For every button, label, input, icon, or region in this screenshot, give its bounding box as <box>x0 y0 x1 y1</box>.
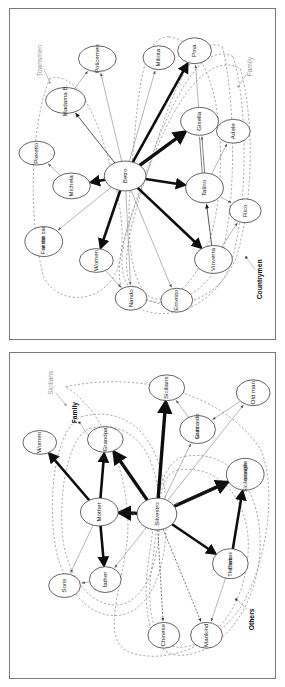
node-label: Miliota <box>155 48 162 66</box>
edge <box>172 524 215 553</box>
node-label: father <box>101 572 108 588</box>
graph-node[interactable]: Talino <box>186 173 224 203</box>
edge <box>48 164 60 176</box>
edge <box>174 482 227 506</box>
graph-node[interactable]: Pieretto <box>19 141 55 165</box>
node-label: Ernesto <box>172 289 179 311</box>
graph-node[interactable]: Grandpa <box>87 427 123 453</box>
edge <box>220 197 231 203</box>
graph-node[interactable]: Nando <box>115 286 147 310</box>
graph-node[interactable]: Gisella <box>181 107 219 135</box>
network-panel-top: BetroMichelaPierettoMadama B.PolicemenFr… <box>9 8 276 340</box>
edge <box>207 204 212 245</box>
edge <box>71 525 94 573</box>
graph-node[interactable]: Madama B. <box>46 84 86 116</box>
edge <box>163 529 201 622</box>
graph-node[interactable]: Pina <box>178 38 212 64</box>
node-label: Lombardo <box>194 414 200 439</box>
group-label: Countrymen <box>256 259 264 299</box>
graph-node[interactable]: Vinverra <box>195 246 233 274</box>
group-label: Family <box>71 402 79 424</box>
graph-node[interactable]: Mother <box>80 498 118 526</box>
graph-node[interactable]: Mankind <box>191 622 223 648</box>
node-label: Women <box>92 249 99 271</box>
graph-node[interactable]: Adele <box>216 119 250 143</box>
network-graph-top: BetroMichelaPierettoMadama B.PolicemenFr… <box>10 9 275 339</box>
graph-node[interactable]: Ernesto <box>161 288 193 312</box>
node-label: Policemen <box>93 44 100 73</box>
graph-node[interactable]: Rico <box>229 199 261 223</box>
graph-node[interactable]: Betro <box>104 161 146 191</box>
node-label: Michela <box>67 175 74 197</box>
node-label: Mother <box>95 502 102 521</box>
group-label: Family <box>246 56 254 76</box>
edge <box>200 137 205 174</box>
node-label: Bartoni <box>227 552 233 570</box>
graph-node[interactable]: father <box>89 567 121 593</box>
graph-node[interactable]: Sons <box>49 574 81 598</box>
node-label: Vinverra <box>209 248 216 271</box>
node-label: Women <box>35 431 42 453</box>
edge <box>211 578 225 621</box>
graph-node[interactable]: Old man <box>236 380 270 406</box>
edge <box>100 454 104 498</box>
edge <box>91 180 105 183</box>
graph-node[interactable]: Chinese <box>148 622 180 648</box>
edge <box>101 526 104 565</box>
node-label: Adele <box>229 123 236 139</box>
edge <box>101 73 122 161</box>
graph-node[interactable]: Sicilians <box>149 375 185 401</box>
graph-node[interactable]: Women <box>79 249 113 273</box>
graph-node[interactable]: Friendsat the bar <box>25 226 63 256</box>
graph-node[interactable]: Michela <box>53 173 91 199</box>
edge <box>120 513 137 514</box>
edge <box>212 401 240 419</box>
figure-page: BetroMichelaPierettoMadama B.PolicemenFr… <box>0 0 285 687</box>
edge <box>82 582 90 583</box>
node-label: Sons <box>60 579 67 593</box>
node-label: oranges <box>242 461 248 481</box>
node-label: Sicilians <box>162 377 169 400</box>
edge <box>196 65 199 107</box>
node-label: Grandpa <box>101 427 108 451</box>
node-label: Nando <box>127 289 134 308</box>
nodes-top: BetroMichelaPierettoMadama B.PolicemenFr… <box>19 38 261 312</box>
graph-node[interactable]: Miliota <box>143 46 175 70</box>
node-label: Betro <box>121 168 128 183</box>
node-label: Pina <box>190 44 197 57</box>
network-graph-bottom: SilvestroMotherGrandpaWomenfatherSonsSic… <box>10 353 275 678</box>
node-label: Talino <box>200 179 207 196</box>
edge <box>101 190 120 247</box>
node-label: at the bar <box>40 226 46 250</box>
edge <box>176 400 189 417</box>
node-label: Old man <box>249 381 256 405</box>
edge <box>133 64 187 162</box>
node-label: Mankind <box>202 623 209 647</box>
edge <box>222 223 238 247</box>
edge <box>212 144 227 174</box>
node-label: Chinese <box>159 623 166 646</box>
network-panel-bottom: SilvestroMotherGrandpaWomenfatherSonsSic… <box>9 352 276 679</box>
edge <box>164 444 191 499</box>
group-label: Sicilians <box>47 370 54 395</box>
edge <box>146 179 185 185</box>
edge <box>115 527 147 567</box>
node-label: Pieretto <box>32 142 39 164</box>
node-label: Madama B. <box>61 84 68 116</box>
graph-node[interactable]: Policemen <box>78 44 116 73</box>
edge <box>131 190 171 287</box>
edge <box>49 454 89 500</box>
group-label: Others <box>248 608 255 630</box>
graph-node[interactable]: Women <box>23 431 57 455</box>
edge <box>158 530 163 621</box>
node-label: Rico <box>241 204 248 217</box>
group-label: Townsmen <box>36 45 43 77</box>
graph-node[interactable]: The twoBartoni <box>212 549 248 579</box>
graph-node[interactable]: Sicilian withoranges <box>226 458 264 492</box>
edge <box>74 71 87 89</box>
graph-node[interactable]: GranLombardo <box>180 414 216 444</box>
edge <box>114 452 147 500</box>
graph-node[interactable]: Silvestro <box>137 498 177 530</box>
node-label: Silvestro <box>153 502 160 526</box>
node-label: Gisella <box>195 111 202 130</box>
